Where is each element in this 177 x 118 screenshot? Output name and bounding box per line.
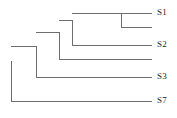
tip-label-s3: S3 xyxy=(157,72,167,81)
tree-branch-group xyxy=(11,13,152,101)
tip-label-s7: S7 xyxy=(157,96,167,105)
phylogenetic-tree-figure: S1 S2 S3 S7 xyxy=(0,0,177,118)
tree-diagram xyxy=(0,0,177,118)
tip-label-s2: S2 xyxy=(157,40,167,49)
tip-label-s1: S1 xyxy=(157,8,167,17)
